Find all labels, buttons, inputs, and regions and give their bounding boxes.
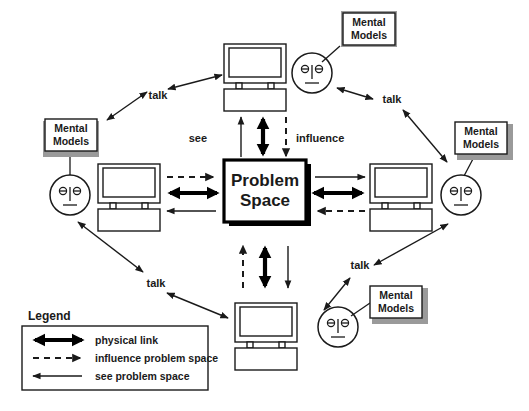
talk-arrow-segment-a <box>337 88 373 99</box>
face-right[interactable] <box>441 157 481 215</box>
mental-models-line1: Mental <box>352 16 385 28</box>
computer-base <box>235 348 297 370</box>
computer-stand-left <box>247 342 253 348</box>
problem-space-label-line2: Space <box>240 191 290 210</box>
influence-label: influence <box>296 132 344 144</box>
talk-arrow-segment-a <box>107 92 147 120</box>
computer-stand-left <box>382 203 388 209</box>
diagram-svg: Problem Space <box>0 0 529 411</box>
computer-left[interactable] <box>98 164 160 231</box>
legend-label-influence: influence problem space <box>95 352 218 364</box>
legend: Legend physical link influence problem s… <box>22 309 218 390</box>
mental-models-line2: Models <box>351 29 387 41</box>
problem-space-node[interactable]: Problem Space <box>224 160 311 226</box>
mental-models-line1: Mental <box>379 289 412 301</box>
talk-link-bottom-left: talk <box>78 222 228 318</box>
problem-space-label-line1: Problem <box>231 171 299 190</box>
computer-stand-left <box>110 203 116 209</box>
computer-bottom[interactable] <box>235 303 297 370</box>
face-top-right[interactable] <box>292 46 340 93</box>
computer-screen <box>229 48 281 77</box>
legend-label-see: see problem space <box>95 370 190 382</box>
computer-stand-right <box>279 342 285 348</box>
computer-stand-right <box>142 203 148 209</box>
computer-base <box>224 89 286 111</box>
talk-arrow-segment-b <box>167 293 228 318</box>
computer-stand-right <box>268 83 274 89</box>
computer-screen <box>103 168 155 197</box>
talk-label: talk <box>149 89 169 101</box>
mental-models-line2: Models <box>378 302 414 314</box>
computer-screen <box>375 168 427 197</box>
talk-label: talk <box>383 93 403 105</box>
mental-models-connector <box>351 303 370 316</box>
legend-title: Legend <box>28 309 71 323</box>
mental-models-line1: Mental <box>464 125 497 137</box>
diagram-canvas: Problem Space <box>0 0 529 411</box>
mental-models-left[interactable]: Mental Models <box>43 119 99 157</box>
see-label: see <box>189 132 207 144</box>
talk-label: talk <box>351 259 371 271</box>
computer-stand-left <box>236 83 242 89</box>
computer-top[interactable] <box>224 44 286 111</box>
computer-base <box>98 209 160 231</box>
talk-link-top-left: talk <box>107 75 222 120</box>
flow-arrows-left <box>167 177 217 211</box>
computer-stand-right <box>414 203 420 209</box>
legend-label-physical-link: physical link <box>95 334 158 346</box>
mental-models-top-right[interactable]: Mental Models <box>341 11 397 47</box>
mental-models-bottom-right[interactable]: Mental Models <box>370 286 428 324</box>
talk-arrow-segment-b <box>168 75 222 89</box>
mental-models-line2: Models <box>53 135 89 147</box>
computer-right[interactable] <box>370 164 432 231</box>
flow-arrows-right <box>314 177 365 211</box>
talk-arrow-segment-a <box>324 278 350 310</box>
computer-base <box>370 209 432 231</box>
face-left[interactable] <box>50 156 90 215</box>
mental-models-connector <box>322 46 340 62</box>
talk-link-top-right: talk <box>337 88 447 162</box>
computer-screen <box>240 307 292 336</box>
mental-models-line1: Mental <box>54 122 87 134</box>
flow-arrows-bottom <box>243 246 288 288</box>
mental-models-line2: Models <box>463 138 499 150</box>
flow-arrows-top <box>241 117 286 157</box>
mental-models-right[interactable]: Mental Models <box>455 122 513 160</box>
talk-label: talk <box>147 277 167 289</box>
talk-arrow-segment-b <box>403 110 447 162</box>
face-bottom-right[interactable] <box>318 303 370 347</box>
